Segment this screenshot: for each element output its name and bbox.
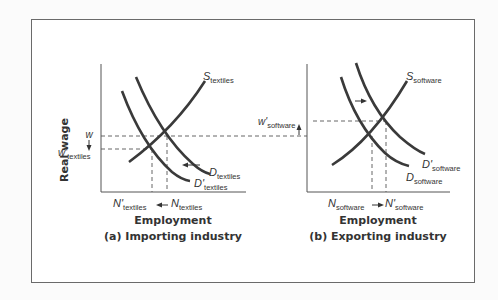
label-s-software: Ssoftware bbox=[406, 70, 442, 85]
x-axis-title-a: Employment bbox=[134, 214, 211, 227]
panel-exporting: w'software Ssoftware D'software Dsoftwar… bbox=[258, 63, 460, 243]
employment-right-arrow-icon bbox=[378, 203, 384, 208]
label-n-prime-software: N'software bbox=[385, 197, 423, 212]
label-n-prime-textiles: N'textiles bbox=[113, 197, 147, 212]
shift-left-arrow-icon bbox=[182, 163, 188, 168]
wage-down-arrow-icon bbox=[87, 145, 92, 151]
label-w: w bbox=[85, 129, 93, 140]
demand-curve-software bbox=[341, 77, 409, 166]
supply-curve-textiles bbox=[129, 81, 205, 162]
labor-market-diagram: Real wage w w'textiles Stextiles Dtextil… bbox=[0, 0, 498, 300]
caption-b: (b) Exporting industry bbox=[309, 230, 447, 243]
label-n-software: Nsoftware bbox=[328, 197, 364, 212]
label-s-textiles: Stextiles bbox=[203, 70, 234, 85]
shift-right-arrow-icon bbox=[361, 99, 367, 104]
label-d-software: Dsoftware bbox=[406, 171, 442, 186]
panel-importing: w w'textiles Stextiles Dtextiles D'texti… bbox=[58, 64, 307, 243]
label-n-textiles: Ntextiles bbox=[171, 197, 203, 212]
label-d-prime-software: D'software bbox=[422, 158, 460, 173]
label-w-prime-software: w'software bbox=[258, 116, 296, 130]
wage-up-arrow-icon bbox=[297, 124, 302, 130]
employment-left-arrow-icon bbox=[156, 203, 162, 208]
caption-a: (a) Importing industry bbox=[104, 230, 242, 243]
label-d-textiles: Dtextiles bbox=[209, 166, 241, 181]
x-axis-title-b: Employment bbox=[339, 214, 416, 227]
